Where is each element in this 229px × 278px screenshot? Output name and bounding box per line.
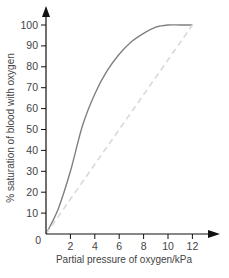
y-tick-label: 30 — [26, 165, 38, 177]
x-tick-label: 10 — [162, 240, 174, 252]
x-tick-label: 8 — [141, 240, 147, 252]
y-tick-label: 90 — [26, 39, 38, 51]
x-axis-label: Partial pressure of oxygen/kPa — [56, 254, 193, 265]
x-tick-label: 6 — [116, 240, 122, 252]
y-tick-label: 40 — [26, 144, 38, 156]
axes: 102030405060708090100246810120Partial pr… — [5, 6, 220, 265]
y-axis-label: % saturation of blood with oxygen — [5, 53, 16, 203]
y-tick-label: 60 — [26, 102, 38, 114]
x-tick-label: 12 — [187, 240, 199, 252]
oxygen-dissociation-chart: 102030405060708090100246810120Partial pr… — [0, 0, 229, 278]
x-tick-label: 2 — [67, 240, 73, 252]
dashed-reference-line — [46, 25, 192, 234]
y-tick-label: 10 — [26, 207, 38, 219]
x-axis-arrow-icon — [208, 230, 220, 238]
y-tick-label: 70 — [26, 81, 38, 93]
x-tick-label: 4 — [92, 240, 98, 252]
y-axis-arrow-icon — [42, 6, 50, 17]
y-tick-label: 80 — [26, 60, 38, 72]
plot-area — [46, 25, 192, 234]
y-tick-label: 100 — [20, 19, 38, 31]
y-tick-label: 20 — [26, 186, 38, 198]
dissociation-curve — [46, 25, 192, 234]
origin-label: 0 — [35, 234, 41, 246]
y-tick-label: 50 — [26, 123, 38, 135]
